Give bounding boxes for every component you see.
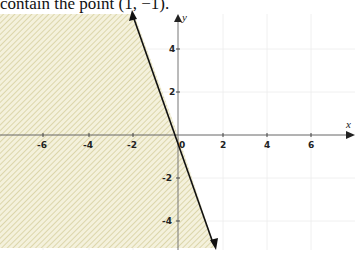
svg-text:4: 4 bbox=[264, 140, 270, 150]
svg-text:4: 4 bbox=[169, 44, 175, 54]
x-axis-label: x bbox=[345, 118, 351, 130]
svg-text:-4: -4 bbox=[83, 140, 93, 150]
y-axis-label: y bbox=[181, 11, 187, 23]
svg-text:-2: -2 bbox=[162, 173, 172, 183]
svg-text:6: 6 bbox=[308, 140, 314, 150]
svg-text:2: 2 bbox=[169, 87, 175, 97]
graph: -6 -4 -2 0 2 4 6 4 2 -2 -4 x y bbox=[0, 0, 355, 255]
x-axis-arrow-icon bbox=[346, 131, 355, 139]
y-axis-arrow-icon bbox=[174, 14, 182, 22]
svg-text:2: 2 bbox=[220, 140, 226, 150]
svg-text:-4: -4 bbox=[162, 216, 172, 226]
svg-text:-2: -2 bbox=[127, 140, 137, 150]
svg-text:-6: -6 bbox=[37, 140, 47, 150]
